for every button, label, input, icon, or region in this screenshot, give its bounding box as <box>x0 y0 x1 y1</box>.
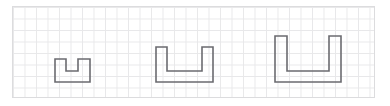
graph-paper-grid <box>12 6 375 98</box>
screenshot-canvas <box>0 0 390 106</box>
